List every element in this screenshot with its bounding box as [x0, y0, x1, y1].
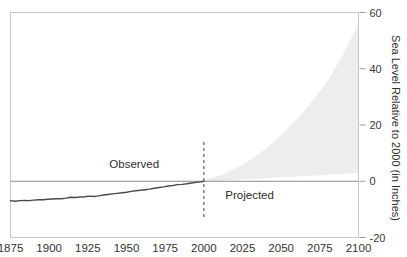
x-tick-label: 2075 [307, 242, 333, 254]
annotation-observed: Observed [109, 158, 159, 170]
y-tick-label: 0 [370, 175, 376, 187]
y-tick-label: -20 [370, 232, 386, 244]
x-tick-label: 1950 [114, 242, 140, 254]
x-tick-label: 1975 [152, 242, 178, 254]
annotation-projected: Projected [225, 189, 274, 201]
x-tick-label: 1900 [36, 242, 62, 254]
x-tick-label: 2050 [268, 242, 294, 254]
x-tick-label: 2025 [230, 242, 256, 254]
y-axis-title: Sea Level Relative to 2000 (in Inches) [390, 35, 402, 221]
x-tick-label: 2000 [191, 242, 217, 254]
x-tick-label: 2100 [346, 242, 372, 254]
chart-canvas: -200204060 18751900192519501975200020252… [0, 0, 407, 257]
y-tick-label: 40 [370, 63, 382, 75]
x-tick-label: 1925 [75, 242, 101, 254]
y-tick-label: 60 [370, 7, 382, 19]
y-tick-label: 20 [370, 119, 382, 131]
x-tick-label: 1875 [0, 242, 23, 254]
sea-level-chart: -200204060 18751900192519501975200020252… [0, 0, 407, 257]
